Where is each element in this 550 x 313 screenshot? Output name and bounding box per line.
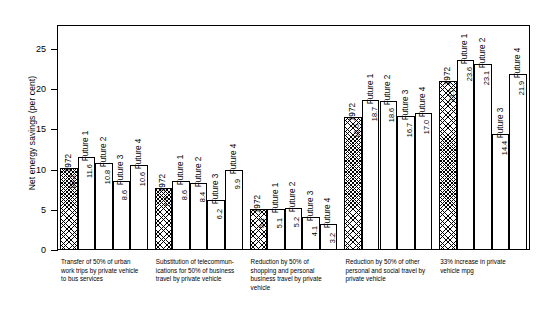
category-caption-line: Reduction by 50% of other	[345, 258, 431, 267]
bar[interactable]: 5.2	[285, 208, 303, 250]
bar[interactable]: 8.6	[113, 181, 131, 250]
series-name-label: Future 2	[384, 74, 392, 105]
bar[interactable]: 4.1	[302, 217, 320, 250]
bar-group: 7.78.68.46.29.9	[155, 25, 243, 250]
series-name-label: Future 3	[117, 155, 125, 186]
series-name-label: 1972	[64, 154, 72, 172]
bar-value-label: 21.9	[518, 81, 525, 95]
bar[interactable]: 10.6	[130, 165, 148, 250]
bar[interactable]: 6.2	[207, 200, 225, 250]
series-name-label: 1972	[444, 67, 452, 85]
category-caption-line: private vehicle	[345, 275, 431, 284]
series-name-label: Future 3	[212, 174, 220, 205]
bar[interactable]: 14.4	[492, 134, 510, 250]
category-caption-line: ications for 50% of business	[156, 267, 242, 276]
bar-value-label: 23.1	[483, 71, 490, 85]
series-name-label: Future 4	[135, 139, 143, 170]
y-axis-tick-label: 10	[26, 165, 46, 174]
series-name-label: Future 4	[229, 144, 237, 175]
series-name-label: Future 1	[82, 130, 90, 161]
bar-value-label: 4.1	[311, 226, 318, 236]
category-caption-line: work trips by private vehicle	[61, 267, 147, 276]
category-caption: Reduction by 50% ofshopping and personal…	[251, 258, 337, 292]
bar[interactable]: 23.1	[474, 64, 492, 250]
series-name-label: Future 1	[272, 183, 280, 214]
series-name-label: 1972	[349, 103, 357, 121]
category-caption-line: to bus services	[61, 275, 147, 284]
bar-value-label: 23.6	[466, 67, 473, 81]
category-caption: 33% increase in privatevehicle mpg	[440, 258, 526, 275]
bar[interactable]: 21.9	[509, 74, 527, 250]
bar[interactable]: 21.0	[439, 81, 457, 250]
series-name-label: Future 4	[514, 48, 522, 79]
series-name-label: 1972	[254, 195, 262, 213]
series-name-label: Future 1	[177, 155, 185, 186]
bar-value-label: 5.1	[276, 218, 283, 228]
category-caption: Substitution of telecommun-ications for …	[156, 258, 242, 284]
category-caption-line: business travel by private	[251, 275, 337, 284]
y-axis-tick-label: 15	[26, 125, 46, 134]
bar-value-label: 6.2	[216, 209, 223, 219]
category-caption-line: travel by private vehicle	[156, 275, 242, 284]
series-name-label: Future 4	[324, 198, 332, 229]
series-name-label: Future 4	[419, 87, 427, 118]
bar-value-label: 8.6	[181, 190, 188, 200]
y-axis-tick-label: 25	[26, 45, 46, 54]
bar[interactable]: 10.2	[60, 168, 78, 250]
bar-value-label: 9.9	[234, 179, 241, 189]
category-caption-line: personal and social travel by	[345, 267, 431, 276]
category-caption-line: Transfer of 50% of urban	[61, 258, 147, 267]
bar-value-label: 10.2	[69, 175, 76, 189]
category-caption-line: vehicle	[251, 284, 337, 293]
bar[interactable]: 18.7	[362, 100, 380, 250]
category-caption: Transfer of 50% of urbanwork trips by pr…	[61, 258, 147, 284]
bar[interactable]: 7.7	[155, 188, 173, 250]
bar-value-label: 11.6	[86, 164, 93, 178]
series-name-label: Future 2	[194, 156, 202, 187]
bar-value-label: 18.6	[388, 107, 395, 121]
bar-value-label: 16.6	[353, 123, 360, 137]
bar[interactable]: 5.1	[250, 209, 268, 250]
category-caption-line: Reduction by 50% of	[251, 258, 337, 267]
bar-value-label: 8.4	[199, 191, 206, 201]
bar-value-label: 21.0	[448, 88, 455, 102]
category-caption: Reduction by 50% of otherpersonal and so…	[345, 258, 431, 284]
bar[interactable]: 10.8	[95, 163, 113, 250]
bar[interactable]: 9.9	[225, 170, 243, 250]
bar-value-label: 8.6	[121, 190, 128, 200]
series-name-label: Future 3	[496, 108, 504, 139]
category-caption-line: vehicle mpg	[440, 267, 526, 276]
series-name-label: Future 2	[100, 137, 108, 168]
bar-value-label: 18.7	[371, 107, 378, 121]
series-name-label: Future 1	[461, 34, 469, 65]
bar-value-label: 16.7	[406, 123, 413, 137]
bar-chart-figure: Net energy savings (per cent) 0510152025…	[0, 0, 550, 313]
bar[interactable]: 16.6	[344, 117, 362, 250]
series-name-label: Future 3	[307, 191, 315, 222]
category-caption-line: shopping and personal	[251, 267, 337, 276]
bar[interactable]: 17.0	[415, 113, 433, 250]
series-name-label: Future 1	[366, 73, 374, 104]
bar-value-label: 17.0	[423, 120, 430, 134]
series-name-label: Future 2	[289, 182, 297, 213]
bar-value-label: 10.6	[139, 172, 146, 186]
series-name-label: Future 3	[402, 90, 410, 121]
bar-group: 16.618.718.616.717.0	[344, 25, 432, 250]
bar[interactable]: 8.6	[172, 181, 190, 250]
bar[interactable]: 23.6	[457, 60, 475, 250]
category-caption-line: 33% increase in private	[440, 258, 526, 267]
bar[interactable]: 16.7	[397, 116, 415, 250]
bar-value-label: 5.2	[293, 217, 300, 227]
bar-value-label: 3.2	[329, 233, 336, 243]
bar-value-label: 7.7	[164, 197, 171, 207]
y-axis-tick-label: 5	[26, 205, 46, 214]
bar[interactable]: 8.4	[190, 183, 208, 251]
bar-value-label: 5.1	[258, 218, 265, 228]
bar[interactable]: 18.6	[380, 101, 398, 250]
y-axis-tick-label: 20	[26, 85, 46, 94]
bar[interactable]: 11.6	[78, 157, 96, 250]
bar[interactable]: 5.1	[267, 209, 285, 250]
series-name-label: 1972	[159, 174, 167, 192]
series-name-label: Future 2	[479, 38, 487, 69]
bar-value-label: 10.8	[104, 170, 111, 184]
